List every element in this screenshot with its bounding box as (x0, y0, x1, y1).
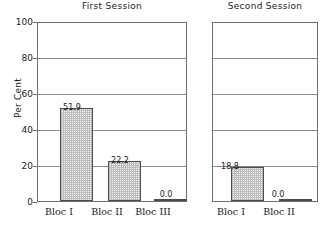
y-tick-label-20: 20 (9, 162, 33, 171)
category-label-first-bloc-iii: Bloc III (119, 207, 187, 217)
value-label-first-bloc-iii: 0.0 (132, 191, 200, 199)
gridline-80 (213, 58, 317, 59)
value-label-first-bloc-ii: 22.2 (86, 157, 154, 165)
bar-first-bloc-i (60, 108, 93, 201)
panel-title-first-session: First Session (37, 1, 187, 11)
value-label-second-bloc-ii: 0.0 (244, 191, 312, 199)
gridline-80 (38, 58, 186, 59)
value-label-second-bloc-i: 18.8 (196, 163, 264, 171)
plot-area-second-session (212, 22, 318, 202)
y-tick-label-40: 40 (9, 126, 33, 135)
bar-second-bloc-ii (279, 199, 312, 201)
gridline-60 (213, 94, 317, 95)
y-tick-label-80: 80 (9, 54, 33, 63)
value-label-first-bloc-i: 51.9 (38, 104, 106, 112)
y-tick-label-0: 0 (9, 198, 33, 207)
panel-title-second-session: Second Session (212, 1, 318, 11)
bar-first-bloc-iii (154, 199, 187, 201)
category-label-second-bloc-ii: Bloc II (245, 207, 313, 217)
y-tick-mark-0 (33, 202, 37, 203)
gridline-40 (213, 130, 317, 131)
gridline-60 (38, 94, 186, 95)
y-tick-label-100: 100 (9, 18, 33, 27)
y-tick-label-60: 60 (9, 90, 33, 99)
plot-area-first-session (37, 22, 187, 202)
bar-chart-figure: Per Cent 100 80 60 40 20 0 First Session… (0, 0, 328, 236)
